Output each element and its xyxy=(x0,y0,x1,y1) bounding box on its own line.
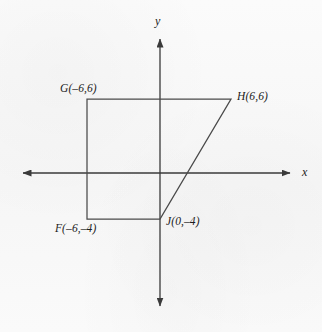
quadrilateral-fghj xyxy=(87,99,231,219)
vertex-label-h: H(6,6) xyxy=(237,90,268,102)
vertex-label-f: F(–6,–4) xyxy=(55,222,96,234)
coordinate-plane-figure: G(–6,6) H(6,6) F(–6,–4) J(0,–4) x y xyxy=(0,0,322,332)
plot-canvas xyxy=(0,0,322,332)
y-axis-label: y xyxy=(155,14,160,29)
vertex-label-g: G(–6,6) xyxy=(60,82,97,94)
vertex-label-j: J(0,–4) xyxy=(166,215,200,227)
x-axis-label: x xyxy=(302,165,307,180)
